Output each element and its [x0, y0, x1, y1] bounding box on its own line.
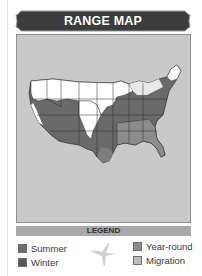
legend-item-summer: Summer	[18, 242, 67, 254]
legend-label-summer: Summer	[31, 243, 67, 254]
summer-swatch	[18, 244, 27, 253]
title-banner: RANGE MAP	[15, 10, 191, 32]
legend-item-year-round: Year-round	[133, 240, 193, 252]
legend-item-migration: Migration	[133, 254, 185, 266]
range-map	[16, 34, 191, 223]
legend-label-winter: Winter	[31, 257, 58, 268]
legend-header: LEGEND	[16, 226, 191, 236]
year-round-swatch	[133, 242, 142, 251]
us-range-map	[17, 35, 192, 224]
winter-swatch	[18, 258, 27, 267]
legend-label-year-round: Year-round	[146, 241, 193, 252]
page-edge-line	[7, 0, 8, 276]
legend-label-migration: Migration	[146, 255, 185, 266]
migration-swatch	[133, 256, 142, 265]
legend-item-winter: Winter	[18, 256, 58, 268]
bird-silhouette-icon	[88, 241, 116, 267]
page-title: RANGE MAP	[15, 10, 191, 32]
